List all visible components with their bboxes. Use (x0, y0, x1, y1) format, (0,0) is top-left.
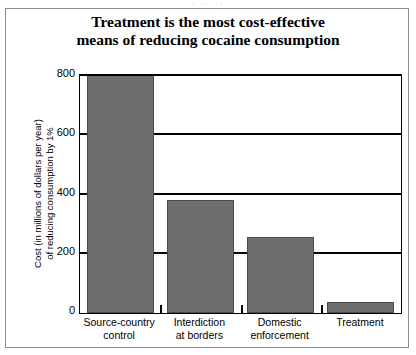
bar-1 (167, 200, 234, 313)
y-tick-label-0: 0 (29, 305, 75, 316)
x-tick-1 (241, 305, 243, 314)
y-tick-label-400: 400 (29, 187, 75, 198)
bar-0 (87, 76, 154, 313)
x-category-label-3: Treatment (320, 316, 400, 329)
scan-artifact-text: · ·· ·· (0, 0, 416, 7)
chart-title-line-2: means of reducing cocaine consumption (14, 31, 402, 49)
x-category-label-2-line-0: Domestic (240, 316, 320, 329)
x-category-label-2-line-1: enforcement (240, 329, 320, 342)
x-category-label-0-line-0: Source-country (79, 316, 159, 329)
x-category-label-3-line-0: Treatment (320, 316, 400, 329)
y-tick-label-600: 600 (29, 127, 75, 138)
y-tick-label-200: 200 (29, 246, 75, 257)
y-tick-label-800: 800 (29, 68, 75, 79)
x-category-label-1: Interdictionat borders (159, 316, 239, 342)
bar-2 (247, 237, 314, 313)
x-tick-0 (160, 305, 162, 314)
bar-3 (327, 302, 394, 313)
x-category-label-2: Domesticenforcement (240, 316, 320, 342)
chart-title-line-1: Treatment is the most cost-effective (14, 13, 402, 31)
x-category-label-1-line-0: Interdiction (159, 316, 239, 329)
x-tick-2 (321, 305, 323, 314)
x-category-label-0-line-1: control (79, 329, 159, 342)
x-category-label-0: Source-countrycontrol (79, 316, 159, 342)
x-category-label-1-line-1: at borders (159, 329, 239, 342)
chart-title: Treatment is the most cost-effective mea… (14, 13, 402, 49)
plot-area (79, 74, 402, 314)
chart-figure: · ·· ·· Treatment is the most cost-effec… (0, 0, 416, 355)
